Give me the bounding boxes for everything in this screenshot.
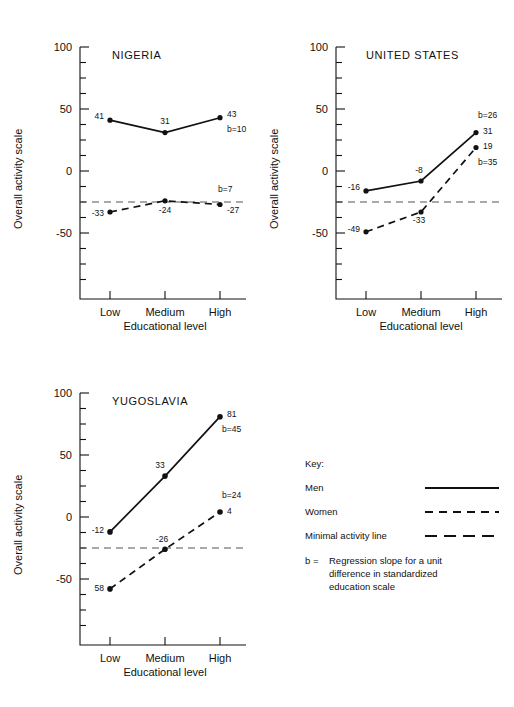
y-axis-title: Overall activity scale [12,129,24,229]
y-axis-title: Overall activity scale [268,129,280,229]
x-ticks [110,291,220,299]
women-point-label-high: 4 [227,506,232,516]
panel-title-nigeria: NIGERIA [112,49,161,61]
y-tick-label-0: 0 [66,511,72,523]
women-point-label-medium: -24 [159,205,172,215]
women-point-label-high: 19 [483,141,493,151]
dashed-line-sample-icon [423,507,501,517]
axis-lines [80,47,246,299]
key-label-men: Men [305,482,423,493]
y-tick-label-50: 50 [60,103,72,115]
men-point-label-high: 43 [227,109,237,119]
yugoslavia-plot-svg: Overall activity scale 100 50 0 -50 [0,370,258,676]
women-point-label-low: 58 [95,583,105,593]
men-point-label-medium: 33 [155,460,165,470]
key-title: Key: [305,458,510,469]
men-point-label-medium: -8 [415,165,423,175]
men-slope-label: b=26 [478,110,497,120]
chart-panel-united-states: Overall activity scale 100 50 0 -50 [256,24,514,330]
men-point-label-high: 31 [483,126,493,136]
x-ticks [110,637,220,645]
key-row-men: Men [305,482,510,493]
solid-line-sample-icon [423,483,501,493]
nigeria-plot-svg: Overall activity scale 100 50 0 -50 [0,24,258,330]
y-tick-label-neg50: -50 [56,573,72,585]
y-tick-label-neg50: -50 [312,227,328,239]
men-point-label-low: -12 [92,525,105,535]
x-axis-title: Educational level [123,666,206,676]
women-slope-label: b=7 [218,184,233,194]
key-row-women: Women [305,506,510,517]
chart-panel-yugoslavia: Overall activity scale 100 50 0 -50 [0,370,258,676]
men-slope-label: b=45 [222,424,241,434]
chart-key: Key: Men Women Minimal activity line b =… [305,458,510,593]
chart-panel-nigeria: Overall activity scale 100 50 0 -50 [0,24,258,330]
key-note-line3: education scale [329,581,395,592]
key-row-minimal-activity: Minimal activity line [305,530,510,541]
women-point-label-medium: -33 [413,215,426,225]
x-ticks [366,291,476,299]
y-tick-label-50: 50 [60,449,72,461]
x-axis-title: Educational level [379,320,462,330]
x-tick-label-low: Low [356,306,376,318]
x-tick-label-medium: Medium [145,652,184,664]
x-tick-label-high: High [209,652,232,664]
men-point-label-high: 81 [227,409,237,419]
y-tick-label-0: 0 [66,165,72,177]
y-tick-label-50: 50 [316,103,328,115]
long-dashed-line-sample-icon [423,531,501,541]
x-tick-label-low: Low [100,306,120,318]
y-tick-label-100: 100 [54,387,72,399]
key-note-text: Regression slope for a unit difference i… [329,554,442,593]
y-tick-label-100: 100 [310,41,328,53]
women-slope-label: b=35 [478,157,497,167]
key-note-regression: b = Regression slope for a unit differen… [305,554,510,593]
panel-title-united-states: UNITED STATES [366,49,459,61]
x-tick-label-high: High [209,306,232,318]
men-point-label-low: -16 [348,182,361,192]
x-tick-label-low: Low [100,652,120,664]
key-label-women: Women [305,506,423,517]
women-point-label-high: -27 [227,205,240,215]
key-label-minimal-activity: Minimal activity line [305,530,423,541]
series-men-markers [363,130,478,193]
women-slope-label: b=24 [222,490,241,500]
y-tick-label-0: 0 [322,165,328,177]
us-plot-svg: Overall activity scale 100 50 0 -50 [256,24,514,330]
x-tick-label-medium: Medium [145,306,184,318]
women-point-label-medium: -26 [156,534,169,544]
women-point-label-low: -33 [92,208,105,218]
key-note-b-char: b = [305,554,329,593]
key-note-line1: Regression slope for a unit [329,555,442,566]
x-tick-label-high: High [465,306,488,318]
women-point-label-low: -49 [348,224,361,234]
y-axis-title: Overall activity scale [12,475,24,575]
panel-title-yugoslavia: YUGOSLAVIA [112,395,188,407]
men-point-label-low: 41 [95,111,105,121]
men-slope-label: b=10 [227,124,246,134]
y-tick-label-neg50: -50 [56,227,72,239]
key-note-line2: difference in standardized [329,568,438,579]
men-point-label-medium: 31 [160,116,170,126]
x-tick-label-medium: Medium [401,306,440,318]
x-axis-title: Educational level [123,320,206,330]
y-tick-label-100: 100 [54,41,72,53]
